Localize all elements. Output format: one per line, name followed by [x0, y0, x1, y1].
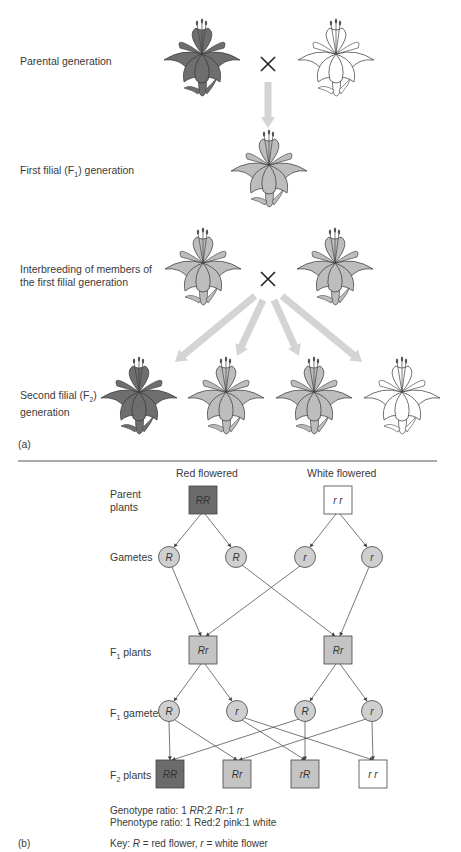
genotype-label: RR — [163, 769, 177, 780]
flower-parent-white — [298, 19, 374, 97]
cross-arrow — [172, 567, 201, 636]
cross-arrow — [174, 514, 201, 547]
genotype-label: rR — [300, 769, 311, 780]
flower-f1-pink — [231, 130, 307, 208]
flower-interbreed-left — [165, 228, 241, 306]
cross-arrow — [310, 514, 336, 547]
flower-f2-4-white — [364, 357, 440, 435]
arrow-f2-4 — [280, 293, 362, 362]
cross-arrow — [169, 722, 170, 761]
cross-arrow — [242, 720, 305, 760]
genotype-label: r r — [333, 495, 343, 506]
genetics-diagram: ×× RRr rRRrrRrRrRrRrRRRrrRr r — [0, 0, 461, 852]
cross-arrow — [206, 566, 300, 636]
genotype-label: Rr — [198, 645, 209, 656]
parent-box-2: r r — [324, 486, 352, 514]
f1-plant-box-2: Rr — [324, 636, 352, 664]
f1-gamete-2: r — [227, 701, 248, 722]
part-a-flower-cross: ×× — [101, 19, 440, 435]
allele-label: R — [165, 552, 172, 563]
gamete-4: r — [362, 547, 383, 568]
cross-arrow — [205, 514, 231, 547]
f2-plant-box-4: r r — [359, 760, 387, 788]
f1-plant-box-1: Rr — [189, 636, 217, 664]
allele-label: R — [165, 706, 172, 717]
f1-gamete-3: R — [295, 701, 316, 722]
genotype-label: Rr — [333, 645, 344, 656]
cross-arrow — [340, 664, 367, 701]
f1-gamete-1: R — [159, 701, 180, 722]
flower-interbreed-right — [297, 228, 373, 306]
cross-arrow — [340, 567, 369, 636]
f2-plant-box-1: RR — [156, 760, 184, 788]
flower-parent-red — [164, 19, 240, 97]
f2-plant-box-3: rR — [291, 760, 319, 788]
genotype-label: RR — [196, 495, 210, 506]
f2-plant-box-2: Rr — [223, 760, 251, 788]
flower-f2-2-pink — [188, 357, 264, 435]
f1-gamete-4: r — [362, 701, 383, 722]
cross-arrow — [340, 514, 367, 547]
cross-parental: × — [261, 57, 275, 71]
cross-arrow — [172, 719, 299, 760]
cross-arrow — [175, 720, 237, 760]
allele-label: R — [232, 552, 239, 563]
cross-arrow — [245, 718, 373, 760]
arrow-f2-1 — [175, 293, 257, 362]
arrow-to-f1 — [261, 82, 275, 128]
part-b-punnett-tree: RRr rRRrrRrRrRrRrRRRrrRr r — [156, 486, 387, 788]
cross-arrow — [310, 664, 336, 701]
cross-arrow — [242, 565, 335, 636]
gamete-3: r — [295, 547, 316, 568]
allele-label: R — [301, 706, 308, 717]
parent-box-1: RR — [189, 486, 217, 514]
cross-interbreed: × — [261, 272, 275, 286]
flower-f2-1-red — [101, 357, 177, 435]
flower-f2-3-pink — [276, 357, 352, 435]
cross-arrow — [372, 722, 373, 761]
gamete-1: R — [159, 547, 180, 568]
genotype-label: Rr — [232, 769, 243, 780]
cross-arrow — [205, 664, 232, 701]
cross-arrow — [239, 719, 366, 760]
gamete-2: R — [226, 547, 247, 568]
cross-arrow — [174, 664, 201, 701]
genotype-label: r r — [368, 769, 378, 780]
